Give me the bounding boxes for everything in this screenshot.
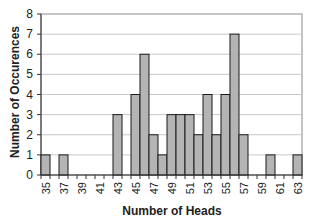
x-tick-label: 57 <box>238 182 250 194</box>
y-axis-title: Number of Occurences <box>8 26 22 158</box>
y-tick-label: 0 <box>26 168 33 182</box>
bar-60 <box>266 155 275 175</box>
y-tick-label: 7 <box>26 27 33 41</box>
bar-49 <box>167 115 176 175</box>
x-axis-title: Number of Heads <box>122 204 222 218</box>
bar-35 <box>41 155 50 175</box>
x-tick-label: 47 <box>148 182 160 194</box>
bar-46 <box>140 54 149 175</box>
bars <box>41 34 302 175</box>
bar-55 <box>221 95 230 176</box>
bar-51 <box>185 115 194 175</box>
x-tick-label: 39 <box>76 182 88 194</box>
x-tick-label: 55 <box>220 182 232 194</box>
x-tick-label: 63 <box>292 182 304 194</box>
bar-54 <box>212 135 221 175</box>
x-tick-label: 51 <box>184 182 196 194</box>
bar-45 <box>131 95 140 176</box>
bar-57 <box>239 135 248 175</box>
y-tick-label: 6 <box>26 47 33 61</box>
y-tick-label: 5 <box>26 67 33 81</box>
y-tick-label: 1 <box>26 148 33 162</box>
y-tick-label: 3 <box>26 108 33 122</box>
x-tick-label: 35 <box>40 182 52 194</box>
bar-43 <box>113 115 122 175</box>
x-tick-label: 43 <box>112 182 124 194</box>
histogram-chart: 012345678 353739414345474951535557596163… <box>0 0 311 222</box>
x-tick-label: 59 <box>256 182 268 194</box>
bar-56 <box>230 34 239 175</box>
y-tick-label: 8 <box>26 7 33 21</box>
bar-63 <box>293 155 302 175</box>
bar-52 <box>194 135 203 175</box>
x-tick-label: 41 <box>94 182 106 194</box>
bar-48 <box>158 155 167 175</box>
bar-50 <box>176 115 185 175</box>
x-tick-label: 53 <box>202 182 214 194</box>
x-axis-ticks: 353739414345474951535557596163 <box>40 175 304 194</box>
x-tick-label: 61 <box>274 182 286 194</box>
x-tick-label: 45 <box>130 182 142 194</box>
bar-53 <box>203 95 212 176</box>
y-tick-label: 4 <box>26 88 33 102</box>
x-tick-label: 37 <box>58 182 70 194</box>
x-tick-label: 49 <box>166 182 178 194</box>
y-tick-label: 2 <box>26 128 33 142</box>
bar-37 <box>59 155 68 175</box>
y-axis-ticks: 012345678 <box>26 7 41 182</box>
bar-47 <box>149 135 158 175</box>
